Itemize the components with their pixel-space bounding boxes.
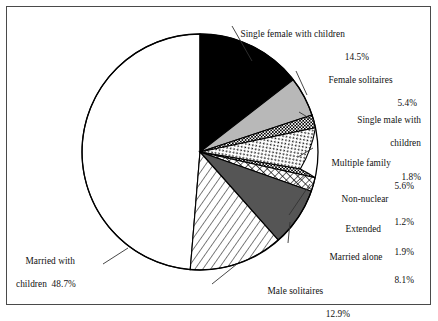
callout-label-line2: children 48.7% (16, 279, 136, 290)
callout-male-solitaires: Male solitaires 12.9% (258, 275, 368, 321)
callout-label-text: Single female with children (241, 29, 345, 39)
callout-label-text: Multiple family (332, 158, 391, 168)
slice-married-with-children (82, 34, 200, 270)
callout-percent: 12.9% (258, 309, 350, 320)
callout-label-text: Male solitaires (268, 286, 324, 296)
callout-label-text: Extended (346, 224, 382, 234)
callout-label-text: Married alone (330, 252, 383, 262)
callout-label-line1: Single male with (357, 115, 421, 125)
callout-label-text: Non-nuclear (342, 194, 389, 204)
callout-percent: 14.5% (231, 52, 369, 63)
callout-married-with-children: Married with children 48.7% (16, 245, 136, 313)
callout-label-text: Female solitaires (329, 75, 393, 85)
callout-label-line1: Married with (26, 256, 75, 266)
